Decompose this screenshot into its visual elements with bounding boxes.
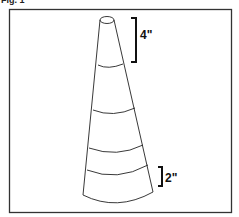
dimension-4in: 4": [140, 28, 152, 42]
cone-band-3: [89, 145, 143, 152]
cone-band-4: [87, 165, 148, 175]
cone-right-side: [114, 20, 153, 192]
cone-left-side: [83, 20, 100, 195]
cone-base: [83, 192, 153, 203]
cone-shape: [83, 17, 153, 203]
figure-frame: [10, 10, 232, 213]
cone-diagram: 4" 2": [0, 0, 239, 217]
cone-band-2: [93, 108, 135, 114]
dimension-2in: 2": [165, 171, 177, 185]
bracket-bottom: [158, 167, 162, 186]
bracket-top: [131, 18, 136, 62]
cone-top-ellipse: [100, 17, 114, 24]
cone-band-1: [98, 64, 123, 67]
